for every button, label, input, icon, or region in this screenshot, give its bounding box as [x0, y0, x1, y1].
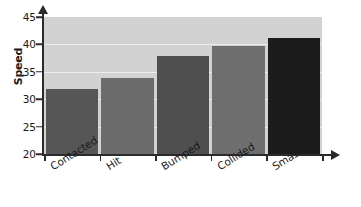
- y-axis-arrowhead-icon: [38, 5, 48, 14]
- y-axis-tickmark: [36, 153, 43, 155]
- x-axis-arrowhead-icon: [331, 150, 340, 160]
- y-axis-tickmark: [36, 98, 43, 100]
- x-axis-tickmark: [266, 154, 268, 161]
- plot-area: [44, 17, 322, 154]
- y-axis-tickmark: [36, 71, 43, 73]
- y-axis-tickmark: [36, 44, 43, 46]
- y-axis-tick-label: 25: [14, 121, 36, 133]
- bar: [101, 78, 154, 154]
- x-axis-tickmark: [100, 154, 102, 161]
- y-axis-tickmark: [36, 16, 43, 18]
- x-axis-tickmark: [155, 154, 157, 161]
- bar: [268, 38, 321, 154]
- y-axis-tick-label: 35: [14, 66, 36, 78]
- y-axis-line: [42, 12, 44, 156]
- y-axis-tick-label: 20: [14, 148, 36, 160]
- x-axis-tick-label: Hit: [104, 154, 123, 172]
- x-axis-tickmark: [322, 154, 324, 161]
- x-axis-tickmark: [211, 154, 213, 161]
- y-axis-tickmark: [36, 126, 43, 128]
- x-axis-tickmark: [44, 154, 46, 161]
- bar-chart: Speed 202530354045 ContactedHitBumpedCol…: [0, 0, 361, 207]
- bar: [212, 46, 265, 154]
- bar: [157, 56, 210, 154]
- y-axis-tick-label: 40: [14, 38, 36, 50]
- y-axis-tick-label: 30: [14, 93, 36, 105]
- y-axis-tick-label: 45: [14, 11, 36, 23]
- y-axis-tick-labels: 202530354045: [12, 0, 36, 207]
